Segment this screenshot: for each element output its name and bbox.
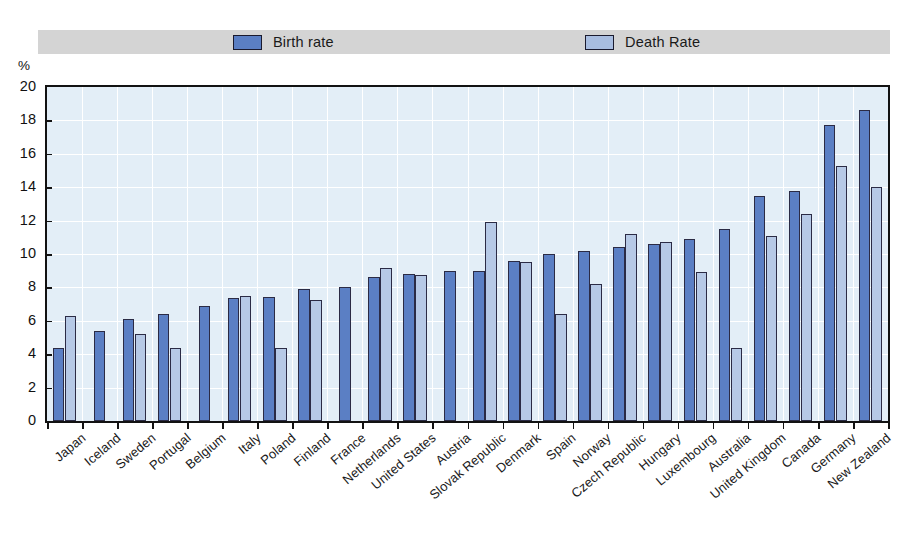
x-axis-tick <box>152 423 154 429</box>
bar-death-rate <box>590 284 602 421</box>
x-axis-tick <box>292 423 294 429</box>
x-axis-tick <box>713 423 715 429</box>
bar-death-rate <box>485 222 497 421</box>
x-axis-tick <box>82 423 84 429</box>
bar-death-rate <box>310 300 322 421</box>
y-axis-label: 2 <box>4 379 36 395</box>
y-axis-label: 10 <box>4 245 36 261</box>
y-axis-tick <box>45 120 52 122</box>
bar-birth-rate <box>824 125 836 421</box>
legend-entry-birth-rate: Birth rate <box>233 30 334 54</box>
x-axis-tick <box>222 423 224 429</box>
x-axis-tick <box>748 423 750 429</box>
bar-birth-rate <box>473 271 485 421</box>
x-axis-tick <box>853 423 855 429</box>
gridline-vertical <box>818 87 819 421</box>
bar-birth-rate <box>228 298 240 421</box>
x-axis-tick <box>432 423 434 429</box>
x-axis-tick <box>608 423 610 429</box>
legend-label-birth-rate: Birth rate <box>273 34 334 50</box>
x-axis-tick <box>538 423 540 429</box>
bar-birth-rate <box>298 289 310 421</box>
x-axis-tick <box>818 423 820 429</box>
bar-birth-rate <box>543 254 555 421</box>
x-axis-tick <box>468 423 470 429</box>
gridline-vertical <box>573 87 574 421</box>
x-axis-category-label: Poland <box>257 430 298 468</box>
plot-area <box>45 85 890 423</box>
y-axis-label: 8 <box>4 278 36 294</box>
x-axis-tick <box>503 423 505 429</box>
bar-death-rate <box>696 272 708 421</box>
x-axis-tick <box>362 423 364 429</box>
gridline-vertical <box>538 87 539 421</box>
bar-birth-rate <box>94 331 106 421</box>
bar-death-rate <box>801 214 813 421</box>
bar-birth-rate <box>123 319 135 421</box>
bar-birth-rate <box>719 229 731 421</box>
bar-birth-rate <box>578 251 590 421</box>
y-axis-label: 0 <box>4 412 36 428</box>
gridline-vertical <box>292 87 293 421</box>
y-axis-label: 4 <box>4 345 36 361</box>
bar-birth-rate <box>339 287 351 421</box>
y-axis-tick <box>45 287 52 289</box>
bar-death-rate <box>240 296 252 421</box>
gridline-vertical <box>783 87 784 421</box>
x-axis-tick <box>257 423 259 429</box>
bar-birth-rate <box>403 274 415 421</box>
gridline-vertical <box>468 87 469 421</box>
y-axis-tick <box>45 154 52 156</box>
x-axis-tick <box>678 423 680 429</box>
bar-death-rate <box>625 234 637 421</box>
legend-swatch-icon-death-rate <box>585 35 614 50</box>
bar-death-rate <box>380 268 392 421</box>
legend-label-death-rate: Death Rate <box>625 34 700 50</box>
gridline-vertical <box>713 87 714 421</box>
x-axis-tick <box>573 423 575 429</box>
x-axis-tick <box>888 423 890 429</box>
gridline-vertical <box>678 87 679 421</box>
y-axis-tick <box>45 321 52 323</box>
y-axis-label: 6 <box>4 312 36 328</box>
bar-death-rate <box>170 348 182 421</box>
bar-death-rate <box>731 348 743 421</box>
gridline-vertical <box>853 87 854 421</box>
y-axis-label: 20 <box>4 78 36 94</box>
chart-page: Birth rate Death Rate % 0246810121416182… <box>0 0 908 551</box>
x-axis-tick <box>643 423 645 429</box>
bar-birth-rate <box>199 306 211 421</box>
x-axis-tick <box>397 423 399 429</box>
bar-birth-rate <box>859 110 871 421</box>
gridline-vertical <box>327 87 328 421</box>
bar-birth-rate <box>263 297 275 421</box>
bar-death-rate <box>555 314 567 421</box>
bar-death-rate <box>871 187 883 421</box>
bar-death-rate <box>65 316 77 421</box>
y-axis-tick <box>45 354 52 356</box>
bar-birth-rate <box>648 244 660 421</box>
y-axis-tick <box>45 187 52 189</box>
y-axis-tick <box>45 388 52 390</box>
y-axis-unit-label: % <box>18 58 30 73</box>
bar-death-rate <box>660 242 672 421</box>
bar-birth-rate <box>789 191 801 421</box>
gridline-vertical <box>82 87 83 421</box>
legend-entry-death-rate: Death Rate <box>585 30 700 54</box>
bar-birth-rate <box>508 261 520 421</box>
gridline-vertical <box>257 87 258 421</box>
x-axis-tick <box>327 423 329 429</box>
gridline-vertical <box>152 87 153 421</box>
bar-birth-rate <box>368 277 380 421</box>
x-axis-tick <box>187 423 189 429</box>
gridline-vertical <box>503 87 504 421</box>
bar-death-rate <box>766 236 778 421</box>
bar-birth-rate <box>158 314 170 421</box>
bar-death-rate <box>135 334 147 421</box>
gridline-vertical <box>397 87 398 421</box>
legend-swatch-icon-birth-rate <box>233 35 262 50</box>
bar-birth-rate <box>444 271 456 421</box>
y-axis-tick <box>45 221 52 223</box>
bar-death-rate <box>836 166 848 422</box>
bar-death-rate <box>415 275 427 421</box>
